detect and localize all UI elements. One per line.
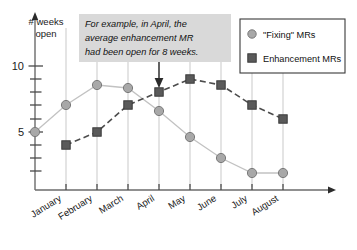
- data-point-enhancement-march: [124, 101, 132, 109]
- legend-label-enhancement-mrs: Enhancement MRs: [263, 54, 342, 64]
- data-point-enhancement-july: [248, 101, 256, 109]
- data-point-fixing-august: [278, 168, 287, 177]
- legend-label-fixing-mrs: "Fixing" MRs: [263, 30, 316, 40]
- x-label-february: February: [56, 192, 94, 222]
- legend-background: [240, 19, 345, 73]
- callout-line-1: For example, in April, the: [85, 19, 187, 29]
- data-point-enhancement-february: [93, 128, 101, 136]
- data-point-enhancement-may: [186, 75, 194, 83]
- x-axis: [35, 187, 336, 194]
- weeks-open-line-chart: 10 5 # weeks open For example, in April,…: [0, 0, 357, 250]
- x-label-april: April: [134, 192, 156, 211]
- data-point-fixing-june: [216, 153, 225, 162]
- y-tick-label-5: 5: [18, 126, 24, 138]
- annotation-callout: For example, in April, the average enhan…: [79, 14, 231, 88]
- x-axis-ticks: [66, 184, 283, 190]
- y-axis-title-line1: # weeks: [29, 16, 64, 27]
- chart-legend: "Fixing" MRs Enhancement MRs: [240, 19, 345, 73]
- data-point-enhancement-august: [279, 115, 287, 123]
- data-point-fixing-april: [154, 106, 163, 115]
- data-point-fixing-march: [123, 83, 132, 92]
- data-point-fixing-january: [61, 100, 70, 109]
- callout-line-2: average enhancement MR: [85, 33, 194, 43]
- data-point-fixing-july: [247, 168, 256, 177]
- x-label-may: May: [166, 192, 187, 211]
- x-label-august: August: [249, 192, 280, 217]
- x-label-july: July: [229, 192, 249, 210]
- callout-line-3: had been open for 8 weeks.: [85, 47, 198, 57]
- legend-square-marker-icon: [248, 54, 256, 62]
- x-label-june: June: [195, 192, 218, 212]
- data-point-enhancement-june: [217, 81, 225, 89]
- callout-arrow-head: [155, 78, 164, 88]
- y-axis-title-line2: open: [35, 28, 56, 39]
- data-point-fixing-february: [92, 80, 101, 89]
- data-point-fixing-origin: [30, 127, 39, 136]
- data-point-enhancement-april: [155, 88, 163, 96]
- x-axis-labels: January February March April May June Ju…: [29, 192, 281, 222]
- chart-container: 10 5 # weeks open For example, in April,…: [0, 0, 357, 250]
- y-tick-label-10: 10: [12, 60, 24, 72]
- legend-circle-marker-icon: [248, 30, 256, 38]
- data-point-fixing-may: [185, 132, 194, 141]
- y-axis-ticks: [29, 66, 44, 171]
- x-label-march: March: [97, 192, 125, 215]
- data-point-enhancement-january: [62, 141, 70, 149]
